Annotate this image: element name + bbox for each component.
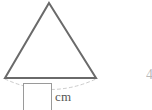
answer-input[interactable]: [23, 83, 52, 110]
triangle-shape: [5, 3, 96, 78]
clipped-edge-glyph: 4: [146, 67, 152, 83]
unit-label-cm: cm: [55, 89, 71, 105]
geometry-figure: cm 4: [0, 0, 152, 110]
